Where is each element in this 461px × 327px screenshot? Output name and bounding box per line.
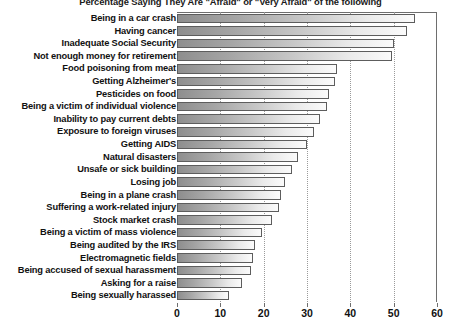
x-tick-label: 10 [200, 307, 240, 319]
bar [177, 39, 394, 49]
bar-row: Having cancer [177, 25, 437, 38]
bar-row: Natural disasters [177, 151, 437, 164]
category-label: Being in a plane crash [0, 189, 176, 202]
bar-row: Losing job [177, 176, 437, 189]
bar-row: Being a victim of individual violence [177, 100, 437, 113]
category-label: Getting AIDS [0, 138, 176, 151]
category-label: Electromagnetic fields [0, 252, 176, 265]
bar-row: Not enough money for retirement [177, 50, 437, 63]
bar [177, 102, 327, 112]
bar-row: Being a victim of mass violence [177, 226, 437, 239]
category-label: Getting Alzheimer's [0, 75, 176, 88]
bar [177, 215, 272, 225]
bar-row: Being audited by the IRS [177, 239, 437, 252]
bar [177, 190, 281, 200]
category-label: Exposure to foreign viruses [0, 125, 176, 138]
bar-row: Inadequate Social Security [177, 37, 437, 50]
category-label: Food poisoning from meat [0, 62, 176, 75]
bar-row: Being in a car crash [177, 12, 437, 25]
bar [177, 51, 392, 61]
bar-row: Electromagnetic fields [177, 252, 437, 265]
bar [177, 77, 335, 87]
bar-row: Exposure to foreign viruses [177, 125, 437, 138]
bar [177, 228, 262, 238]
category-label: Being a victim of individual violence [0, 100, 176, 113]
category-label: Being audited by the IRS [0, 239, 176, 252]
bar [177, 253, 253, 263]
bar [177, 177, 285, 187]
x-tick-label: 30 [287, 307, 327, 319]
bar-row: Being accused of sexual harassment [177, 264, 437, 277]
bar [177, 266, 251, 276]
x-tick-label: 20 [244, 307, 284, 319]
x-axis: 0102030405060 [177, 303, 437, 325]
category-label: Unsafe or sick building [0, 163, 176, 176]
bar-row: Pesticides on food [177, 88, 437, 101]
bar-row: Food poisoning from meat [177, 62, 437, 75]
category-label: Inability to pay current debts [0, 113, 176, 126]
bar [177, 89, 329, 99]
bar [177, 278, 242, 288]
x-tick-label: 50 [374, 307, 414, 319]
bar-chart: Percentage Saying They Are "Afraid" or "… [0, 0, 461, 327]
bar-row: Being in a plane crash [177, 189, 437, 202]
category-label: Suffering a work-related injury [0, 201, 176, 214]
bar [177, 152, 298, 162]
category-label: Stock market crash [0, 214, 176, 227]
category-label: Asking for a raise [0, 277, 176, 290]
x-tick-label: 40 [330, 307, 370, 319]
bar [177, 64, 337, 74]
bar [177, 26, 407, 36]
bar [177, 140, 307, 150]
category-label: Being accused of sexual harassment [0, 264, 176, 277]
bar [177, 165, 292, 175]
bar [177, 240, 255, 250]
category-label: Not enough money for retirement [0, 50, 176, 63]
bar-row: Stock market crash [177, 214, 437, 227]
bar-row: Asking for a raise [177, 277, 437, 290]
bar-row: Being sexually harassed [177, 289, 437, 302]
bar-row: Unsafe or sick building [177, 163, 437, 176]
category-label: Being in a car crash [0, 12, 176, 25]
bar [177, 127, 314, 137]
bar-row: Getting Alzheimer's [177, 75, 437, 88]
x-tick-label: 60 [417, 307, 457, 319]
bar [177, 114, 320, 124]
plot-area: Being in a car crashHaving cancerInadequ… [177, 12, 437, 302]
bar-row: Suffering a work-related injury [177, 201, 437, 214]
bar [177, 14, 415, 24]
chart-title: Percentage Saying They Are "Afraid" or "… [0, 0, 461, 7]
category-label: Natural disasters [0, 151, 176, 164]
category-label: Being a victim of mass violence [0, 226, 176, 239]
category-label: Losing job [0, 176, 176, 189]
bar-row: Inability to pay current debts [177, 113, 437, 126]
bar [177, 291, 229, 301]
bar-row: Getting AIDS [177, 138, 437, 151]
x-tick-label: 0 [157, 307, 197, 319]
bar [177, 203, 279, 213]
category-label: Being sexually harassed [0, 289, 176, 302]
category-label: Pesticides on food [0, 88, 176, 101]
category-label: Having cancer [0, 25, 176, 38]
category-label: Inadequate Social Security [0, 37, 176, 50]
